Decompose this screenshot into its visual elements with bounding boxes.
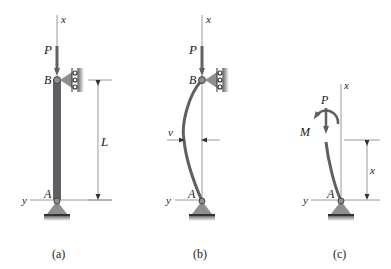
pin-a-label: A — [187, 187, 196, 201]
length-label: L — [100, 134, 108, 149]
panel-c: x P M x y A (c) — [299, 79, 380, 261]
section-height-label: x — [369, 164, 375, 176]
pin-a-icon — [338, 198, 344, 204]
y-axis-label: y — [302, 194, 308, 206]
caption-c: (c) — [333, 247, 346, 261]
x-axis-label: x — [343, 79, 349, 91]
panel-b: x P B v y A (b) — [165, 13, 229, 261]
y-axis-label: y — [165, 194, 171, 206]
x-axis-label: x — [60, 13, 66, 25]
pin-a-label: A — [43, 187, 52, 201]
load-label: P — [43, 42, 52, 57]
pin-a-icon — [54, 198, 60, 204]
pin-b-icon — [199, 77, 206, 84]
roller-support-icon — [60, 72, 72, 88]
pin-a-label: A — [326, 187, 335, 201]
load-label: P — [188, 42, 197, 57]
load-label: P — [320, 93, 329, 107]
pin-a-icon — [199, 198, 205, 204]
roller-support-icon — [205, 72, 217, 88]
caption-b: (b) — [193, 247, 207, 261]
x-axis-label: x — [205, 13, 211, 25]
pin-b-icon — [54, 77, 61, 84]
caption-a: (a) — [52, 247, 65, 261]
column-member — [53, 80, 61, 200]
buckled-column-member — [183, 80, 202, 201]
column-buckling-diagram: x P B L y A (a) x P — [0, 0, 391, 269]
moment-label: M — [299, 125, 311, 139]
deflection-label: v — [168, 126, 173, 138]
pin-b-label: B — [44, 73, 52, 87]
pin-b-label: B — [189, 73, 197, 87]
y-axis-label: y — [21, 194, 27, 206]
panel-a: x P B L y A (a) — [21, 13, 112, 261]
